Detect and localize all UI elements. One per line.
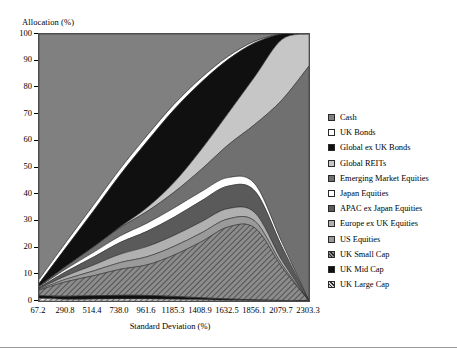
stacked-area-svg xyxy=(39,34,309,301)
legend-label: UK Small Cap xyxy=(340,250,389,259)
legend-label: UK Large Cap xyxy=(340,280,389,289)
plot-area xyxy=(38,33,310,302)
legend-swatch-icon xyxy=(328,114,335,121)
legend-label: Emerging Market Equities xyxy=(340,174,429,183)
x-axis-title: Standard Deviation (%) xyxy=(0,321,340,331)
legend-swatch-icon xyxy=(328,190,335,197)
legend-swatch-icon xyxy=(328,160,335,167)
y-tick-label: 0 xyxy=(6,296,32,305)
legend-label: US Equities xyxy=(340,235,380,244)
y-tick-label: 20 xyxy=(6,242,32,251)
y-tick-label: 40 xyxy=(6,189,32,198)
y-tick-label: 60 xyxy=(6,135,32,144)
legend-label: UK Mid Cap xyxy=(340,265,384,274)
legend-item[interactable]: UK Small Cap xyxy=(328,247,456,262)
legend: CashUK BondsGlobal ex UK BondsGlobal REI… xyxy=(328,110,456,292)
y-tick-label: 70 xyxy=(6,109,32,118)
legend-item[interactable]: UK Mid Cap xyxy=(328,262,456,277)
legend-swatch-icon xyxy=(328,266,335,273)
legend-item[interactable]: APAC ex Japan Equities xyxy=(328,201,456,216)
legend-label: APAC ex Japan Equities xyxy=(340,204,422,213)
footer-rule xyxy=(0,347,457,348)
legend-swatch-icon xyxy=(328,281,335,288)
legend-swatch-icon xyxy=(328,251,335,258)
y-tick-label: 30 xyxy=(6,215,32,224)
y-tick-label: 80 xyxy=(6,82,32,91)
legend-item[interactable]: Global ex UK Bonds xyxy=(328,140,456,155)
legend-item[interactable]: US Equities xyxy=(328,232,456,247)
legend-item[interactable]: Cash xyxy=(328,110,456,125)
y-tick-label: 90 xyxy=(6,55,32,64)
legend-label: Global ex UK Bonds xyxy=(340,143,410,152)
legend-item[interactable]: Global REITs xyxy=(328,156,456,171)
y-axis-title: Allocation (%) xyxy=(22,17,74,27)
legend-swatch-icon xyxy=(328,144,335,151)
legend-swatch-icon xyxy=(328,175,335,182)
legend-swatch-icon xyxy=(328,205,335,212)
legend-swatch-icon xyxy=(328,220,335,227)
legend-label: UK Bonds xyxy=(340,128,376,137)
legend-label: Global REITs xyxy=(340,159,386,168)
legend-item[interactable]: Europe ex UK Equities xyxy=(328,216,456,231)
y-tick-label: 50 xyxy=(6,162,32,171)
legend-swatch-icon xyxy=(328,236,335,243)
legend-label: Cash xyxy=(340,113,357,122)
y-tick-label: 100 xyxy=(6,29,32,38)
x-tick-label: 2303.3 xyxy=(284,306,332,315)
chart-figure: Allocation (%) 0102030405060708090100 67… xyxy=(0,0,457,357)
legend-item[interactable]: Japan Equities xyxy=(328,186,456,201)
legend-swatch-icon xyxy=(328,129,335,136)
legend-label: Europe ex UK Equities xyxy=(340,219,418,228)
legend-item[interactable]: Emerging Market Equities xyxy=(328,171,456,186)
legend-item[interactable]: UK Bonds xyxy=(328,125,456,140)
legend-item[interactable]: UK Large Cap xyxy=(328,277,456,292)
legend-label: Japan Equities xyxy=(340,189,389,198)
y-tick-label: 10 xyxy=(6,269,32,278)
